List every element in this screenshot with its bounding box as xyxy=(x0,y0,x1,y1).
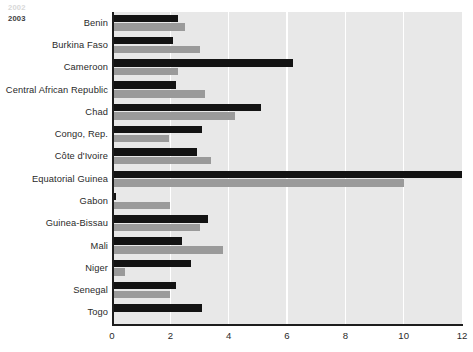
x-tick-label: 0 xyxy=(100,330,124,341)
category-label: Central African Republic xyxy=(0,85,108,95)
x-tick-label: 6 xyxy=(275,330,299,341)
gridline xyxy=(403,12,404,324)
category-label: Togo xyxy=(0,307,108,317)
plot-area xyxy=(112,12,462,324)
bar-2003-c-te-d-ivoire xyxy=(112,157,211,164)
bar-2003-congo-rep xyxy=(112,135,169,142)
category-label: Mali xyxy=(0,241,108,251)
bar-2003-senegal xyxy=(112,291,170,298)
x-tick-label: 12 xyxy=(450,330,473,341)
bar-2003-equatorial-guinea xyxy=(112,179,404,186)
x-tick-label: 10 xyxy=(392,330,416,341)
x-axis-line xyxy=(112,324,463,326)
bar-2002-benin xyxy=(112,15,178,22)
category-label: Côte d'Ivoire xyxy=(0,151,108,161)
legend-label-2002: 2002 xyxy=(8,4,26,12)
bar-2003-guinea-bissau xyxy=(112,224,200,231)
bar-2002-mali xyxy=(112,237,182,244)
bar-2003-cameroon xyxy=(112,68,178,75)
bar-2002-chad xyxy=(112,104,261,111)
bar-2002-burkina-faso xyxy=(112,37,173,44)
category-label-column: BeninBurkina FasoCameroonCentral African… xyxy=(0,12,108,324)
category-label: Niger xyxy=(0,263,108,273)
bar-2002-equatorial-guinea xyxy=(112,171,462,178)
x-tick-label: 8 xyxy=(333,330,357,341)
bar-2002-central-african-republic xyxy=(112,81,176,88)
bar-2002-guinea-bissau xyxy=(112,215,208,222)
bar-2002-niger xyxy=(112,260,191,267)
bar-2003-burkina-faso xyxy=(112,46,200,53)
category-label: Burkina Faso xyxy=(0,40,108,50)
bar-2003-central-african-republic xyxy=(112,90,205,97)
category-label: Equatorial Guinea xyxy=(0,174,108,184)
category-label: Guinea-Bissau xyxy=(0,218,108,228)
bar-2003-mali xyxy=(112,246,223,253)
legend-label-2003: 2003 xyxy=(8,15,26,23)
category-label: Cameroon xyxy=(0,62,108,72)
bar-2003-benin xyxy=(112,23,185,30)
bar-2002-congo-rep xyxy=(112,126,202,133)
x-tick-label: 2 xyxy=(158,330,182,341)
category-label: Senegal xyxy=(0,285,108,295)
category-label: Congo, Rep. xyxy=(0,129,108,139)
bar-chart: BeninBurkina FasoCameroonCentral African… xyxy=(0,0,473,352)
bar-2003-chad xyxy=(112,112,235,119)
bar-2002-c-te-d-ivoire xyxy=(112,148,197,155)
gridline xyxy=(345,12,346,324)
category-label: Chad xyxy=(0,107,108,117)
bar-2002-cameroon xyxy=(112,59,293,66)
category-label: Gabon xyxy=(0,196,108,206)
x-tick-label: 4 xyxy=(217,330,241,341)
bar-2003-gabon xyxy=(112,202,170,209)
bar-2002-togo xyxy=(112,304,202,311)
bar-2003-niger xyxy=(112,268,125,275)
bar-2002-senegal xyxy=(112,282,176,289)
y-axis-line xyxy=(112,12,114,325)
